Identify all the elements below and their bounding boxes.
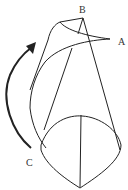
rotation-arrow	[6, 42, 36, 148]
label-b: B	[79, 4, 86, 15]
cone-outline	[30, 18, 121, 188]
cone-diagram: B A C	[0, 0, 128, 190]
label-c: C	[26, 157, 33, 168]
label-a: A	[118, 36, 126, 47]
